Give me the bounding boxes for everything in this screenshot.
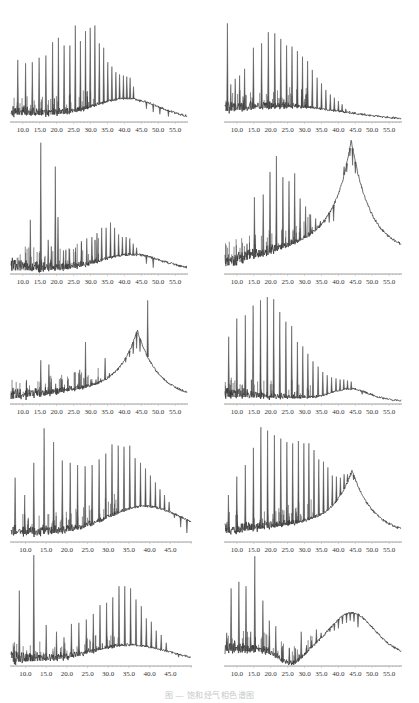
chromatogram-peak [48,365,49,394]
chromatogram-peak [77,465,78,529]
chromatogram-peak [239,76,240,110]
chromatogram-peak [129,78,130,99]
chromatogram-peak [316,78,317,109]
chromatogram-peak [361,391,362,394]
x-tick-label: 45.0 [349,670,362,678]
chromatogram-peak [106,603,107,648]
chromatogram-peak [324,220,325,223]
x-tick-label: 35.0 [315,278,328,286]
chromatogram-peak [268,32,269,107]
x-tick-label: 15.0 [248,126,261,134]
chromatogram-peak [14,478,15,534]
chromatogram-peak [301,632,302,659]
chromatogram-svg: 10.015.020.025.030.035.040.045.050.055.0 [224,552,402,680]
chromatogram-peak [25,63,26,114]
x-tick-label: 30.0 [298,126,311,134]
chromatogram-peak [245,315,246,397]
x-tick-label: 45.0 [349,278,362,286]
x-tick-label: 15.0 [248,670,261,678]
chromatogram-peak [110,223,111,258]
chromatogram-peak [288,181,289,245]
chromatogram-peak [98,459,99,521]
x-tick-label: 20.0 [61,670,74,678]
chromatogram-peak [291,47,292,108]
x-tick-label: 10.0 [17,126,30,134]
chromatogram-peak [347,474,348,482]
chromatogram-peak [349,111,350,113]
chromatogram-peak [133,244,134,255]
chromatogram-peak [104,358,105,380]
chromatogram-peak [141,606,142,646]
chromatogram-peak [85,342,86,387]
chromatogram-peak [62,461,63,533]
x-tick-label: 10.0 [17,408,30,416]
chromatogram-peak [336,477,337,501]
chromatogram-peak [343,474,344,489]
chromatogram-peak [253,448,254,530]
x-tick-label: 50.0 [152,126,165,134]
x-tick-label: 35.0 [315,408,328,416]
chromatogram-peak [70,463,71,531]
chromatogram-peak [276,156,277,250]
chromatogram-peak [282,646,283,662]
chromatogram-peak [32,62,33,114]
chromatogram-peak [123,447,124,511]
chromatogram-peak [299,199,300,241]
chromatogram-peak [124,586,125,645]
chromatogram-peak [55,384,56,393]
chromatogram-peak [99,605,100,650]
x-tick-label: 15.0 [34,126,47,134]
chromatogram-peak [350,613,351,621]
chromatogram-peak [274,435,275,527]
chromatogram-peak [346,614,347,623]
chromatogram-peak [343,167,344,175]
x-tick-label: 25.0 [281,670,294,678]
chromatogram-peak [118,586,119,646]
chromatogram-peak [286,46,287,108]
chromatogram-peak [355,162,356,174]
chromatogram-peak [109,373,110,377]
chromatogram-peak [262,601,263,653]
x-tick-label: 25.0 [67,126,80,134]
chromatogram-peak [40,143,41,270]
chromatogram-peak [178,654,179,657]
x-tick-label: 45.0 [349,126,362,134]
x-tick-label: 55.0 [169,278,182,286]
baseline-trace [11,330,187,400]
x-tick-label: 20.0 [265,126,278,134]
chromatogram-peak [349,148,350,156]
chromatogram-peak [334,98,335,111]
chromatogram-peak [33,555,34,661]
chromatogram-peak [168,111,169,117]
chromatogram-svg: 10.015.020.025.030.035.040.045.050.055.0 [224,8,402,136]
chromatogram-peak [320,221,321,225]
chromatogram-peak [58,38,59,114]
chromatogram-peak [168,502,169,512]
chromatogram-peak [269,172,270,252]
chromatogram-peak [129,351,130,357]
x-tick-label: 20.0 [265,670,278,678]
chromatogram-peak [226,633,227,651]
chromatogram-peak [294,173,295,243]
chromatogram-peak [306,645,307,653]
chromatogram-peak [80,41,81,110]
x-tick-label: 25.0 [281,408,294,416]
chromatogram-peak [122,237,123,255]
chromatogram-peak [38,58,39,115]
chromatogram-peak [57,217,58,269]
chromatogram-peak [267,431,268,528]
chromatogram-peak [282,177,283,248]
chromatogram-peak [332,476,333,506]
x-tick-label: 55.0 [169,408,182,416]
chromatogram-peak [112,597,113,647]
x-tick-label: 45.0 [135,126,148,134]
chromatogram-peak [100,378,101,382]
x-tick-label: 25.0 [67,408,80,416]
chromatogram-peak [136,248,137,255]
x-tick-label: 20.0 [51,408,64,416]
chromatogram-peak [155,482,156,507]
chromatogram-peak [246,244,247,260]
chromatogram-peak [114,228,115,257]
chromatogram-peak [95,380,96,385]
x-tick-label: 10.0 [231,670,244,678]
